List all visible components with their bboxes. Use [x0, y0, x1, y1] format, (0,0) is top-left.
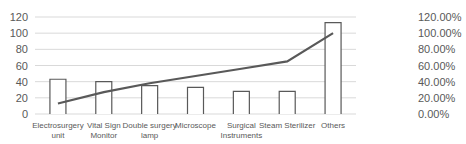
y2-axis-tick-label: 120.00% [418, 11, 462, 23]
x-axis-category-label: Steam Sterilizer [259, 121, 316, 130]
y2-axis-tick-label: 60.00% [418, 60, 456, 72]
bar [279, 91, 295, 114]
x-axis-category-label: Instruments [220, 131, 262, 140]
y-axis-tick-label: 0 [22, 108, 28, 120]
x-axis-category-label: unit [51, 131, 65, 140]
bar [233, 91, 249, 114]
chart-canvas: 0204060801001200.00%20.00%40.00%60.00%80… [0, 0, 466, 144]
bar [96, 82, 112, 114]
y-axis-tick-label: 60 [16, 60, 28, 72]
y2-axis-tick-label: 100.00% [418, 27, 462, 39]
bar [188, 87, 204, 114]
x-axis-category-label: Others [321, 121, 345, 130]
y-axis-tick-label: 40 [16, 76, 28, 88]
x-axis-category-label: Electrosurgery [32, 121, 84, 130]
y2-axis-tick-label: 20.00% [418, 92, 456, 104]
bar [142, 86, 158, 114]
x-axis-category-label: Microscope [175, 121, 216, 130]
y-axis-tick-label: 80 [16, 43, 28, 55]
x-axis-category-label: Surgical [227, 121, 256, 130]
x-axis-category-label: Double surgery [123, 121, 177, 130]
x-axis-category-label: lamp [141, 131, 159, 140]
y-axis-tick-label: 120 [10, 11, 28, 23]
y2-axis-tick-label: 0.00% [418, 108, 449, 120]
y2-axis-tick-label: 40.00% [418, 76, 456, 88]
bar [50, 79, 66, 114]
x-axis-category-label: Monitor [90, 131, 117, 140]
x-axis-category-label: Vital Sign [87, 121, 121, 130]
y2-axis-tick-label: 80.00% [418, 43, 456, 55]
y-axis-tick-label: 20 [16, 92, 28, 104]
y-axis-tick-label: 100 [10, 27, 28, 39]
pareto-chart: 0204060801001200.00%20.00%40.00%60.00%80… [0, 0, 466, 144]
